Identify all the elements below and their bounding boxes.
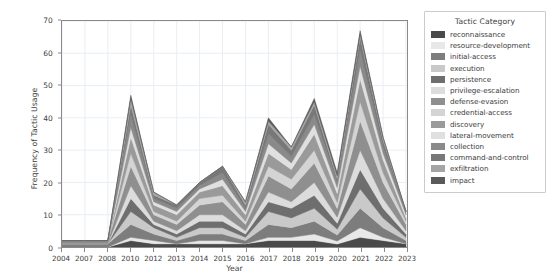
x-tick-label: 2007 [75, 254, 93, 263]
x-tick-mark [384, 248, 385, 252]
stacked-area-series [62, 21, 407, 247]
legend-item-exfiltration[interactable]: exfiltration [431, 163, 539, 174]
legend: Tactic Category reconnaissanceresource-d… [424, 11, 546, 193]
x-tick-mark [61, 248, 62, 252]
x-tick-mark [361, 248, 362, 252]
legend-swatch-execution [431, 65, 445, 72]
x-tick-mark [130, 248, 131, 252]
legend-swatch-resource-development [431, 42, 445, 49]
x-axis-label: Year [61, 264, 408, 273]
legend-label: lateral-movement [450, 131, 514, 140]
legend-swatch-lateral-movement [431, 132, 445, 139]
y-axis-label: Frequency of Tactic Usage [30, 39, 39, 239]
legend-title: Tactic Category [431, 17, 539, 26]
legend-label: discovery [450, 120, 484, 129]
y-tick-label: 60 [43, 48, 53, 57]
x-tick-label: 2015 [214, 254, 232, 263]
legend-swatch-defense-evasion [431, 98, 445, 105]
x-tick-label: 2012 [144, 254, 162, 263]
x-tick-mark [199, 248, 200, 252]
x-tick-mark [315, 248, 316, 252]
x-tick-label: 2004 [52, 254, 70, 263]
x-tick-label: 2023 [398, 254, 416, 263]
legend-label: command-and-control [450, 153, 529, 162]
y-tick-label: 10 [43, 211, 53, 220]
legend-item-lateral-movement[interactable]: lateral-movement [431, 130, 539, 141]
legend-swatch-discovery [431, 121, 445, 128]
x-tick-mark [338, 248, 339, 252]
legend-swatch-initial-access [431, 53, 445, 60]
x-tick-label: 2021 [352, 254, 370, 263]
x-tick-label: 2020 [329, 254, 347, 263]
legend-item-initial-access[interactable]: initial-access [431, 51, 539, 62]
x-tick-label: 2008 [98, 254, 116, 263]
legend-item-discovery[interactable]: discovery [431, 119, 539, 130]
legend-label: impact [450, 176, 474, 185]
legend-swatch-exfiltration [431, 165, 445, 172]
x-tick-label: 2022 [375, 254, 393, 263]
x-tick-mark [84, 248, 85, 252]
y-tick-label: 70 [43, 16, 53, 25]
legend-label: reconnaissance [450, 30, 505, 39]
x-tick-mark [153, 248, 154, 252]
legend-swatch-collection [431, 143, 445, 150]
legend-swatch-persistence [431, 76, 445, 83]
legend-label: resource-development [450, 41, 530, 50]
x-tick-label: 2017 [260, 254, 278, 263]
legend-swatch-impact [431, 177, 445, 184]
legend-item-impact[interactable]: impact [431, 174, 539, 185]
x-tick-label: 2019 [306, 254, 324, 263]
x-tick-mark [222, 248, 223, 252]
x-tick-label: 2018 [283, 254, 301, 263]
plot-area [61, 20, 408, 248]
y-tick-label: 40 [43, 113, 53, 122]
x-tick-label: 2010 [121, 254, 139, 263]
legend-label: persistence [450, 75, 491, 84]
x-tick-mark [407, 248, 408, 252]
legend-item-collection[interactable]: collection [431, 141, 539, 152]
x-tick-mark [107, 248, 108, 252]
legend-swatch-command-and-control [431, 154, 445, 161]
y-tick-label: 0 [48, 244, 53, 253]
x-tick-mark [176, 248, 177, 252]
y-tick-label: 30 [43, 146, 53, 155]
legend-swatch-reconnaissance [431, 31, 445, 38]
legend-label: exfiltration [450, 164, 488, 173]
x-tick-mark [246, 248, 247, 252]
x-tick-label: 2013 [167, 254, 185, 263]
legend-label: initial-access [450, 52, 496, 61]
legend-item-command-and-control[interactable]: command-and-control [431, 152, 539, 163]
legend-label: collection [450, 142, 484, 151]
legend-swatch-privilege-escalation [431, 87, 445, 94]
legend-item-privilege-escalation[interactable]: privilege-escalation [431, 85, 539, 96]
legend-item-credential-access[interactable]: credential-access [431, 107, 539, 118]
legend-swatch-credential-access [431, 109, 445, 116]
x-tick-label: 2016 [237, 254, 255, 263]
y-tick-label: 50 [43, 81, 53, 90]
y-tick-label: 20 [43, 178, 53, 187]
legend-item-persistence[interactable]: persistence [431, 74, 539, 85]
legend-item-defense-evasion[interactable]: defense-evasion [431, 96, 539, 107]
x-tick-mark [292, 248, 293, 252]
legend-label: defense-evasion [450, 97, 508, 106]
legend-item-execution[interactable]: execution [431, 63, 539, 74]
legend-items: reconnaissanceresource-developmentinitia… [431, 29, 539, 186]
legend-label: execution [450, 64, 485, 73]
x-tick-label: 2014 [190, 254, 208, 263]
legend-label: credential-access [450, 108, 512, 117]
legend-label: privilege-escalation [450, 86, 519, 95]
x-tick-mark [269, 248, 270, 252]
stacked-area-chart-figure: 010203040506070 Frequency of Tactic Usag… [0, 0, 556, 278]
legend-item-resource-development[interactable]: resource-development [431, 40, 539, 51]
legend-item-reconnaissance[interactable]: reconnaissance [431, 29, 539, 40]
